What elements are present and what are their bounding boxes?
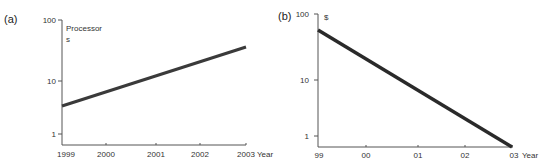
- x-tick-label: 02: [461, 151, 470, 160]
- panel-label-a: (a): [4, 13, 17, 25]
- chart-b: (b) 100 10 1 $ 99 00 01 02 03 Year: [278, 10, 539, 160]
- x-tick-label: 2000: [97, 150, 115, 159]
- y-tick-label: 100: [296, 10, 310, 19]
- y-axis-title-b: $: [324, 13, 329, 22]
- figure: (a) 100 10 1 Processor s 1999 2000 2001 …: [0, 0, 554, 168]
- x-tick-label: 03: [510, 151, 519, 160]
- x-tick-label: 2002: [191, 150, 209, 159]
- y-tick-label: 10: [47, 77, 56, 86]
- chart-a: (a) 100 10 1 Processor s 1999 2000 2001 …: [4, 13, 274, 159]
- x-tick-label: 2001: [147, 150, 165, 159]
- y-axis-title-a-line1: Processor: [66, 24, 102, 33]
- x-tick-label: 2003: [237, 150, 255, 159]
- y-tick-label: 1: [305, 132, 310, 141]
- y-tick-label: 100: [43, 16, 57, 25]
- data-line-a: [62, 47, 246, 106]
- y-axis-title-a-line2: s: [66, 35, 70, 44]
- y-tick-label: 1: [52, 130, 57, 139]
- x-axis-title-a: Year: [257, 150, 274, 159]
- y-tick-label: 10: [300, 76, 309, 85]
- x-tick-label: 00: [362, 151, 371, 160]
- x-axis-title-b: Year: [522, 151, 539, 160]
- data-line-b: [318, 30, 512, 147]
- x-tick-label: 99: [315, 151, 324, 160]
- x-tick-label: 01: [414, 151, 423, 160]
- x-tick-label: 1999: [57, 150, 75, 159]
- panel-label-b: (b): [278, 10, 291, 22]
